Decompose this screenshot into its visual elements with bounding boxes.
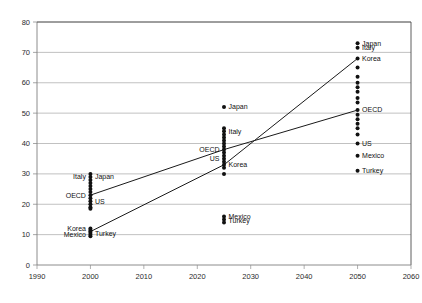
point-label-oecd-2025: OECD — [199, 146, 219, 153]
data-point — [356, 41, 360, 45]
data-point — [356, 96, 360, 100]
x-tick-label-2040: 2040 — [296, 272, 313, 281]
point-label-mexico-2050: Mexico — [362, 152, 384, 159]
point-label-japan-2000: Japan — [95, 173, 114, 181]
cropped-title-artifact — [0, 0, 422, 12]
data-points — [88, 41, 359, 238]
point-label-us-2025: US — [210, 155, 220, 162]
data-point — [356, 122, 360, 126]
data-point — [356, 108, 360, 112]
data-point — [356, 126, 360, 130]
data-point — [356, 75, 360, 79]
y-tick-label-20: 20 — [22, 200, 30, 209]
data-point — [222, 220, 226, 224]
y-tick-label-40: 40 — [22, 139, 30, 148]
point-label-turkey-2000: Turkey — [95, 230, 117, 238]
point-label-oecd-2000: OECD — [66, 192, 86, 199]
y-tick-label-50: 50 — [22, 109, 30, 118]
data-point — [222, 105, 226, 109]
point-label-japan-2025: Japan — [229, 103, 248, 111]
x-tick-label-2050: 2050 — [349, 272, 366, 281]
x-tick-label-2060: 2060 — [403, 272, 420, 281]
x-axis-tick-labels: 19902000201020202030204020502060 — [29, 272, 420, 281]
data-point — [356, 66, 360, 70]
chart-container: 01020304050607080 1990200020102020203020… — [0, 0, 422, 303]
y-tick-label-60: 60 — [22, 78, 30, 87]
data-point — [222, 172, 226, 176]
point-label-turkey-2025: Turkey — [229, 217, 251, 225]
data-point — [88, 207, 92, 211]
x-tick-label-2020: 2020 — [189, 272, 206, 281]
data-point — [356, 46, 360, 50]
data-point — [356, 132, 360, 136]
y-tick-label-80: 80 — [22, 18, 30, 27]
y-axis-tick-labels: 01020304050607080 — [22, 18, 37, 270]
data-point — [356, 81, 360, 85]
x-axis-ticks — [37, 265, 411, 269]
data-point — [356, 142, 360, 146]
point-label-korea-2025: Korea — [229, 161, 248, 168]
point-label-turkey-2050: Turkey — [362, 167, 384, 175]
data-point — [356, 117, 360, 121]
point-label-italy-2000: Italy — [73, 173, 86, 181]
point-label-korea-2050: Korea — [362, 55, 381, 62]
data-point — [356, 85, 360, 89]
data-point — [88, 234, 92, 238]
data-point — [222, 166, 226, 170]
point-label-mexico-2000: Mexico — [64, 231, 86, 238]
data-point — [356, 169, 360, 173]
scatter-plot: 01020304050607080 1990200020102020203020… — [0, 0, 422, 303]
y-tick-label-10: 10 — [22, 230, 30, 239]
y-tick-label-30: 30 — [22, 169, 30, 178]
x-tick-label-1990: 1990 — [29, 272, 46, 281]
data-point — [356, 100, 360, 104]
point-label-oecd-2050: OECD — [362, 106, 382, 113]
point-label-italy-2025: Italy — [229, 128, 242, 136]
x-tick-label-2030: 2030 — [242, 272, 259, 281]
x-tick-label-2000: 2000 — [82, 272, 99, 281]
y-tick-label-0: 0 — [26, 261, 30, 270]
point-label-us-2000: US — [95, 198, 105, 205]
data-point — [356, 113, 360, 117]
y-tick-label-70: 70 — [22, 48, 30, 57]
x-tick-label-2010: 2010 — [136, 272, 153, 281]
data-point — [356, 90, 360, 94]
data-point — [356, 56, 360, 60]
point-label-italy-2050: Italy — [362, 44, 375, 52]
point-label-us-2050: US — [362, 140, 372, 147]
data-point — [356, 154, 360, 158]
